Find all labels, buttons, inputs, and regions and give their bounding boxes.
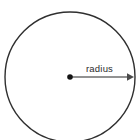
center-point-dot: [67, 74, 73, 80]
circle-radius-diagram: radius: [0, 0, 138, 140]
diagram-canvas: radius: [0, 0, 138, 140]
radius-label: radius: [86, 63, 113, 74]
